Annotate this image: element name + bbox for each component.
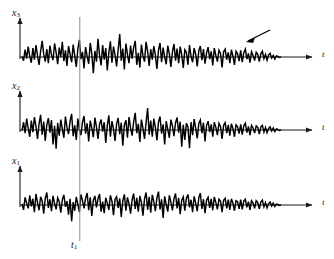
figure-canvas (0, 0, 334, 259)
plot-x2 (20, 91, 312, 149)
trace-x3 (22, 34, 281, 73)
axis-label-t-top: t (322, 50, 325, 59)
axis-label-x3: x3 (12, 8, 20, 19)
axis-label-t-bot: t (322, 198, 325, 207)
figure-random-process-ensemble: x3 x2 x1 t t t t1 (0, 0, 334, 259)
axis-label-x2: x2 (12, 81, 20, 92)
plot-x3 (20, 18, 312, 73)
trace-x2 (22, 108, 281, 149)
marker-label-t1: t1 (71, 240, 77, 251)
pointer-arrow-shaft (248, 30, 270, 41)
axis-label-t-mid: t (322, 123, 325, 132)
plot-x1 (20, 166, 312, 221)
annotation-pointer-arrow (247, 30, 270, 43)
axis-label-x1: x1 (12, 156, 20, 167)
trace-x1 (22, 192, 281, 222)
